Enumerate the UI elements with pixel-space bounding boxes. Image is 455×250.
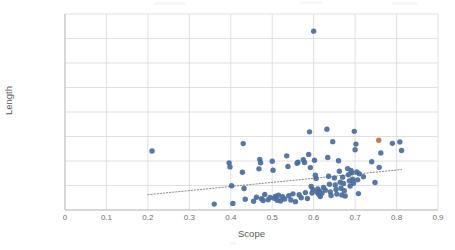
x-tick-label: 0.1: [91, 214, 121, 222]
x-tick-label: 0.5: [257, 214, 287, 222]
data-points: [65, 14, 438, 210]
scan-artifact: [155, 2, 185, 5]
chart-screenshot: 0200004000060000800001000001200001400001…: [0, 0, 455, 250]
y-axis-title: Length: [3, 71, 14, 131]
scan-artifact: [392, 2, 418, 5]
x-tick-label: 0.6: [299, 214, 329, 222]
x-tick-label: 0.2: [133, 214, 163, 222]
x-axis-tick-labels: 00.10.20.30.40.50.60.70.80.9: [65, 214, 438, 228]
plot-area: [65, 14, 438, 210]
x-tick-label: 0: [50, 214, 80, 222]
scan-artifact: [300, 1, 322, 4]
scan-artifact: [230, 242, 236, 245]
x-tick-label: 0.4: [216, 214, 246, 222]
x-tick-label: 0.3: [174, 214, 204, 222]
x-tick-label: 0.7: [340, 214, 370, 222]
x-tick-label: 0.8: [382, 214, 412, 222]
x-axis-title: Scope: [65, 228, 438, 239]
x-tick-label: 0.9: [423, 214, 453, 222]
